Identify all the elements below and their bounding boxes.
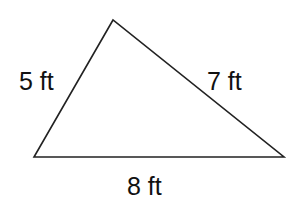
- triangle-diagram: 5 ft 7 ft 8 ft: [0, 0, 299, 205]
- triangle-shape: [34, 20, 284, 157]
- side-label-bottom: 8 ft: [127, 172, 162, 200]
- side-label-left: 5 ft: [19, 67, 54, 95]
- side-label-right: 7 ft: [207, 67, 242, 95]
